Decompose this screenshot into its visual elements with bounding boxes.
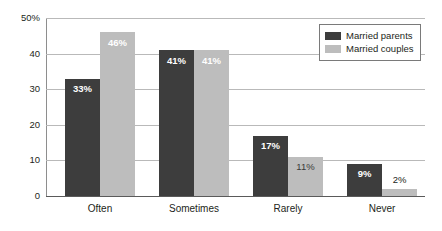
legend-swatch-icon-married-parents bbox=[325, 32, 341, 40]
legend-label-married-parents: Married parents bbox=[346, 31, 413, 41]
x-axis-tick-often: Often bbox=[55, 202, 145, 216]
gridline-baseline-0 bbox=[46, 196, 425, 197]
bar-label-married-couples-rarely: 11% bbox=[288, 162, 323, 172]
bar-label-married-couples-often: 46% bbox=[100, 38, 135, 48]
legend-swatch-icon-married-couples bbox=[325, 45, 341, 53]
bar-married-couples-often[interactable] bbox=[100, 32, 135, 196]
bar-married-parents-sometimes[interactable] bbox=[159, 50, 194, 196]
x-axis-tick-sometimes: Sometimes bbox=[149, 202, 239, 216]
bar-chart: 50% 40 30 20 10 0 33% 46% 41% 41% 17% 11… bbox=[0, 0, 442, 231]
y-axis-tick-10: 10 bbox=[0, 155, 40, 165]
y-axis-tick-40: 40 bbox=[0, 49, 40, 59]
gridline-50 bbox=[46, 18, 425, 19]
legend: Married parents Married couples bbox=[319, 24, 421, 61]
legend-item-married-couples[interactable]: Married couples bbox=[325, 43, 414, 55]
y-axis-labels: 50% 40 30 20 10 0 bbox=[0, 18, 40, 196]
y-axis-tick-20: 20 bbox=[0, 120, 40, 130]
legend-label-married-couples: Married couples bbox=[346, 44, 414, 54]
legend-item-married-parents[interactable]: Married parents bbox=[325, 30, 414, 42]
bar-label-married-couples-never: 2% bbox=[382, 175, 417, 185]
bar-label-married-parents-often: 33% bbox=[65, 84, 100, 94]
bar-married-couples-never[interactable] bbox=[382, 189, 417, 196]
y-axis-tick-0: 0 bbox=[0, 191, 40, 201]
y-axis-tick-50: 50% bbox=[0, 13, 40, 23]
y-axis-tick-30: 30 bbox=[0, 84, 40, 94]
bar-label-married-parents-rarely: 17% bbox=[253, 141, 288, 151]
bar-label-married-couples-sometimes: 41% bbox=[194, 56, 229, 66]
x-axis-tick-rarely: Rarely bbox=[243, 202, 333, 216]
x-axis-labels: Often Sometimes Rarely Never bbox=[46, 202, 425, 220]
bar-label-married-parents-never: 9% bbox=[347, 169, 382, 179]
bar-married-parents-often[interactable] bbox=[65, 79, 100, 197]
bar-label-married-parents-sometimes: 41% bbox=[159, 56, 194, 66]
x-axis-tick-never: Never bbox=[337, 202, 427, 216]
bar-married-couples-sometimes[interactable] bbox=[194, 50, 229, 196]
